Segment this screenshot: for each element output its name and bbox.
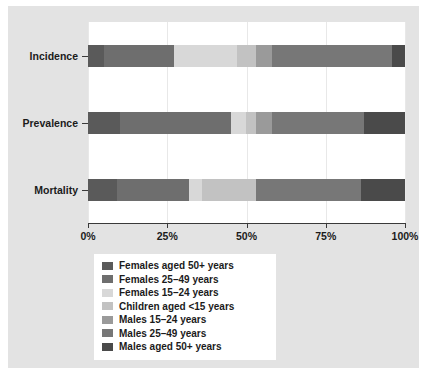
bar-segment bbox=[256, 45, 272, 67]
bar-segment bbox=[202, 179, 256, 201]
legend-item-label: Males 15–24 years bbox=[119, 313, 206, 327]
legend-swatch-icon bbox=[102, 329, 113, 337]
bar-segment bbox=[361, 179, 405, 201]
bar-segment bbox=[256, 179, 361, 201]
legend-item[interactable]: Females 15–24 years bbox=[102, 286, 268, 300]
x-axis-tick bbox=[405, 223, 406, 228]
bar-segment bbox=[104, 45, 174, 67]
legend-item[interactable]: Males aged 50+ years bbox=[102, 340, 268, 354]
y-axis-category-label: Incidence bbox=[0, 50, 88, 62]
bar-segment bbox=[246, 112, 256, 134]
legend-swatch-icon bbox=[102, 262, 113, 270]
bar-segment bbox=[392, 45, 405, 67]
legend-item[interactable]: Females 25–49 years bbox=[102, 273, 268, 287]
legend-item-label: Children aged <15 years bbox=[119, 300, 234, 314]
x-axis-tick-label: 50% bbox=[217, 230, 277, 242]
legend-item[interactable]: Males 15–24 years bbox=[102, 313, 268, 327]
x-axis-tick bbox=[326, 223, 327, 228]
x-axis-tick-label: 0% bbox=[58, 230, 118, 242]
bar-segment bbox=[237, 45, 256, 67]
y-axis-category-label: Mortality bbox=[0, 184, 88, 196]
legend-item-label: Males aged 50+ years bbox=[119, 340, 222, 354]
x-axis-tick-label: 100% bbox=[375, 230, 427, 242]
x-axis-tick-label: 25% bbox=[137, 230, 197, 242]
bar-segment bbox=[189, 179, 202, 201]
stacked-bar bbox=[88, 45, 405, 67]
bar-segment bbox=[231, 112, 247, 134]
legend-item-label: Females aged 50+ years bbox=[119, 259, 234, 273]
legend-swatch-icon bbox=[102, 289, 113, 297]
plot-area bbox=[88, 22, 405, 223]
bar-segment bbox=[256, 112, 272, 134]
legend-item-label: Males 25–49 years bbox=[119, 327, 206, 341]
legend-item-label: Females 15–24 years bbox=[119, 286, 219, 300]
bar-segment bbox=[272, 112, 364, 134]
y-axis-category-label: Prevalence bbox=[0, 117, 88, 129]
bar-segment bbox=[364, 112, 405, 134]
bar-segment bbox=[174, 45, 237, 67]
legend-swatch-icon bbox=[102, 275, 113, 283]
x-axis-tick bbox=[88, 223, 89, 228]
legend-swatch-icon bbox=[102, 343, 113, 351]
chart-legend: Females aged 50+ yearsFemales 25–49 year… bbox=[94, 254, 276, 360]
bar-segment bbox=[120, 112, 231, 134]
legend-item-label: Females 25–49 years bbox=[119, 273, 219, 287]
bar-segment bbox=[88, 45, 104, 67]
x-axis-tick bbox=[247, 223, 248, 228]
legend-item[interactable]: Males 25–49 years bbox=[102, 327, 268, 341]
stacked-bar bbox=[88, 112, 405, 134]
legend-item[interactable]: Children aged <15 years bbox=[102, 300, 268, 314]
x-axis-tick bbox=[167, 223, 168, 228]
chart-figure: 0%25%50%75%100%IncidencePrevalenceMortal… bbox=[8, 6, 419, 368]
bar-segment bbox=[117, 179, 190, 201]
bar-segment bbox=[272, 45, 392, 67]
legend-swatch-icon bbox=[102, 302, 113, 310]
bar-segment bbox=[88, 179, 117, 201]
legend-item[interactable]: Females aged 50+ years bbox=[102, 259, 268, 273]
legend-swatch-icon bbox=[102, 316, 113, 324]
x-axis-tick-label: 75% bbox=[296, 230, 356, 242]
stacked-bar bbox=[88, 179, 405, 201]
gridline bbox=[405, 22, 406, 223]
bar-segment bbox=[88, 112, 120, 134]
